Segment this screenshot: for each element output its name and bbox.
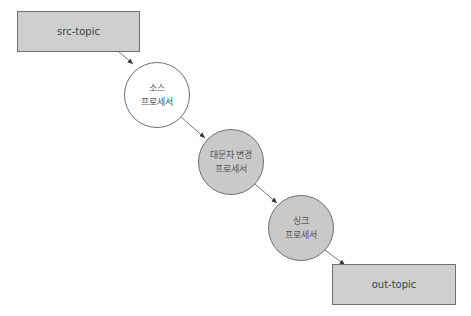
edge-src-to-source (118, 51, 133, 64)
uppercase-processor-line2: 프로세서 (215, 162, 247, 176)
out-topic-box: out-topic (332, 264, 456, 305)
src-topic-box: src-topic (17, 11, 140, 52)
out-topic-label: out-topic (372, 279, 417, 290)
sink-processor-node: 싱크 프로세서 (268, 195, 334, 261)
uppercase-processor-node: 대문자 변경 프로세서 (198, 129, 264, 195)
source-processor-line1: 소스 (149, 81, 165, 95)
edge-uppercase-to-sink (255, 184, 277, 203)
source-processor-node: 소스 프로세서 (124, 62, 190, 128)
source-processor-line2: 프로세서 (141, 95, 173, 109)
sink-processor-line2: 프로세서 (285, 228, 317, 242)
sink-processor-line1: 싱크 (293, 214, 309, 228)
uppercase-processor-line1: 대문자 변경 (210, 148, 253, 162)
src-topic-label: src-topic (57, 26, 100, 37)
edge-sink-to-out (325, 250, 345, 265)
edge-source-to-uppercase (181, 117, 205, 138)
